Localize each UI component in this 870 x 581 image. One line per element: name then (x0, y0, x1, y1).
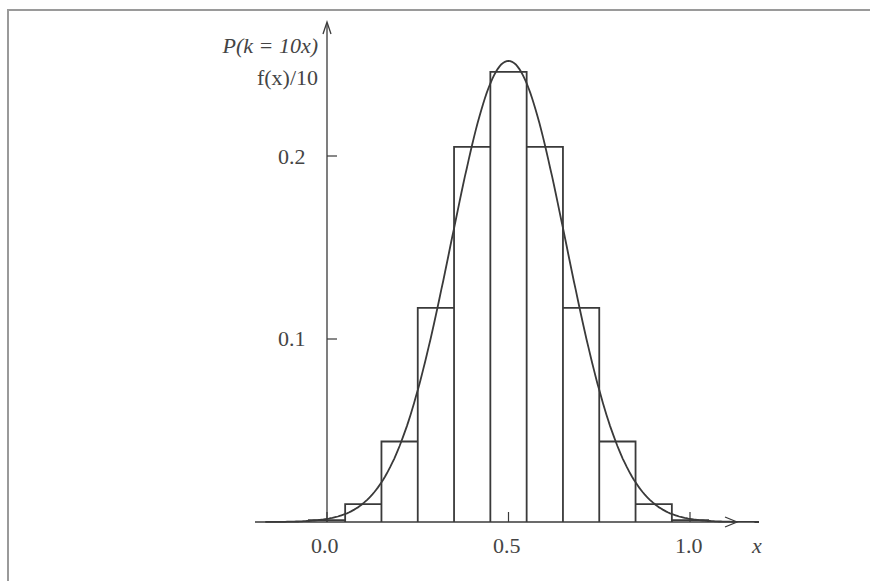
y-axis-label-line2: f(x)/10 (210, 67, 318, 89)
probability-step-histogram (309, 72, 708, 522)
y-axis-label-line1: P(k = 10x) (210, 35, 318, 57)
x-tick-label-0.5: 0.5 (493, 535, 521, 557)
x-tick-label-0.0: 0.0 (311, 535, 339, 557)
x-axis-label: x (752, 535, 762, 557)
y-tick-label-0.2: 0.2 (278, 146, 306, 168)
x-tick-label-1.0: 1.0 (675, 535, 703, 557)
y-axis-label-text-2: f(x)/10 (257, 65, 318, 90)
plot-area (0, 0, 870, 581)
normal-density-curve (265, 61, 759, 522)
y-tick-label-0.1: 0.1 (278, 328, 306, 350)
y-axis-label-text-1: P(k = 10x) (223, 33, 318, 58)
